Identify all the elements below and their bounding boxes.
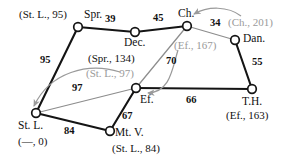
pair-label-stl-relax: (St. L., 97) [86, 68, 134, 79]
edge-spr-dec [78, 27, 135, 32]
node-spr[interactable] [74, 23, 83, 32]
weight-ef-th: 66 [186, 95, 197, 106]
weight-dec-ch: 45 [153, 13, 164, 24]
weight-spr-dec: 39 [105, 14, 116, 25]
graph-diagram: Spr. Dec. Ch. Dan. T.H. Ef. St. L. Mt. V… [0, 0, 296, 164]
node-ch[interactable] [183, 22, 192, 31]
node-label-mtv: Mt. V. [115, 127, 144, 139]
node-label-dan: Dan. [243, 33, 265, 45]
weight-mtv-ef: 67 [122, 111, 133, 122]
node-dec[interactable] [131, 28, 140, 37]
pair-label-ch: (Ch., 201) [228, 17, 273, 28]
edge-dan-th [235, 40, 252, 89]
pair-label-dec: (Spr., 134) [88, 53, 135, 64]
pair-label-spr: (St. L., 95) [19, 9, 67, 20]
pair-label-th: (Ef., 163) [226, 110, 268, 121]
pair-label-mtv: (St. L., 84) [112, 143, 160, 154]
pair-label-stl: (—, 0) [18, 136, 47, 147]
node-label-stl: St. L. [18, 120, 43, 132]
node-label-ef: Ef. [140, 94, 154, 106]
node-th[interactable] [248, 85, 257, 94]
node-label-spr: Spr. [84, 9, 102, 21]
node-stl[interactable] [32, 109, 41, 118]
node-label-ch: Ch. [178, 8, 194, 20]
node-dan[interactable] [231, 36, 240, 45]
weight-stl-ef: 97 [72, 83, 83, 94]
weight-ch-ef: 70 [166, 56, 177, 67]
node-ef[interactable] [132, 84, 141, 93]
node-label-dec: Dec. [124, 37, 145, 49]
edge-ef-th [136, 88, 252, 89]
pair-label-ef: (Ef., 167) [174, 40, 216, 51]
weight-stl-mtv: 84 [64, 126, 75, 137]
weight-dan-th: 55 [252, 57, 263, 68]
weight-ch-dan: 34 [210, 18, 221, 29]
edge-stl-ef [36, 88, 136, 113]
node-mtv[interactable] [106, 127, 115, 136]
node-label-th: T.H. [242, 96, 262, 108]
edge-dec-ch [135, 26, 187, 32]
weight-spr-stl: 95 [40, 55, 51, 66]
edge-spr-stl [36, 27, 78, 113]
relax-arrow-to-ch [194, 8, 241, 16]
